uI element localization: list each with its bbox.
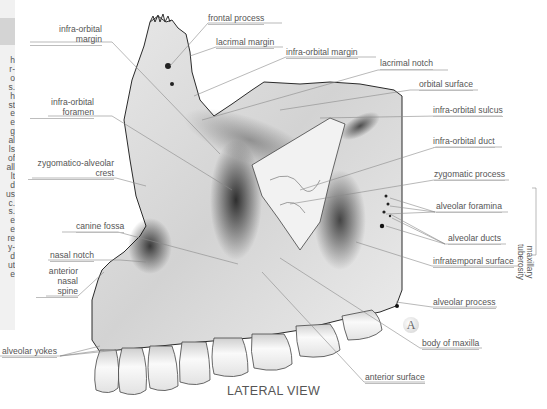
label-anterior-surface: anterior surface: [365, 372, 425, 384]
view-title: LATERAL VIEW: [0, 384, 547, 398]
label-alveolar-yokes: alveolar yokes: [2, 346, 57, 358]
label-zygomatico-alveolar-crest-line2: crest: [28, 168, 114, 178]
label-anterior-nasal-spine: anterior nasal spine: [36, 266, 78, 298]
label-infra-orbital-margin-line2: margin: [30, 34, 102, 44]
label-anterior-nasal-spine-line3: spine: [36, 286, 78, 296]
label-maxillary-tuberosity-line1: maxillary: [525, 222, 534, 302]
label-lacrimal-margin: lacrimal margin: [216, 37, 274, 49]
label-infratemporal-surface: infratemporal surface: [433, 256, 514, 268]
label-alveolar-process: alveolar process: [433, 297, 496, 309]
label-zygomatic-process: zygomatic process: [434, 169, 505, 181]
label-orbital-surface: orbital surface: [419, 79, 473, 91]
label-anterior-nasal-spine-line2: nasal: [36, 276, 78, 286]
label-maxillary-tuberosity: maxillary tuberosity: [516, 222, 534, 302]
label-infra-orbital-foramen: infra-orbital foramen: [30, 97, 94, 119]
label-infra-orbital-duct: infra-orbital duct: [433, 136, 495, 148]
label-alveolar-ducts: alveolar ducts: [448, 233, 501, 245]
view-badge: A: [403, 317, 419, 333]
label-maxillary-tuberosity-line2: tuberosity: [516, 222, 525, 302]
label-alveolar-foramina: alveolar foramina: [436, 201, 502, 213]
label-lacrimal-notch: lacrimal notch: [380, 58, 433, 70]
label-infra-orbital-sulcus: infra-orbital sulcus: [433, 105, 503, 117]
label-canine-fossa: canine fossa: [76, 221, 124, 233]
label-zygomatico-alveolar-crest: zygomatico-alveolar crest: [28, 158, 114, 180]
label-zygomatico-alveolar-crest-line1: zygomatico-alveolar: [28, 158, 114, 168]
label-infra-orbital-foramen-line1: infra-orbital: [30, 97, 94, 107]
label-nasal-notch: nasal notch: [50, 250, 94, 262]
label-frontal-process: frontal process: [208, 13, 264, 25]
label-infra-orbital-margin-top: infra-orbital margin: [286, 47, 358, 59]
label-infra-orbital-margin-line1: infra-orbital: [30, 24, 102, 34]
maxilla-bone: [92, 14, 402, 352]
label-infra-orbital-margin-left: infra-orbital margin: [30, 24, 102, 46]
label-infra-orbital-foramen-line2: foramen: [30, 107, 94, 117]
label-body-of-maxilla: body of maxilla: [422, 338, 479, 350]
label-anterior-nasal-spine-line1: anterior: [36, 266, 78, 276]
